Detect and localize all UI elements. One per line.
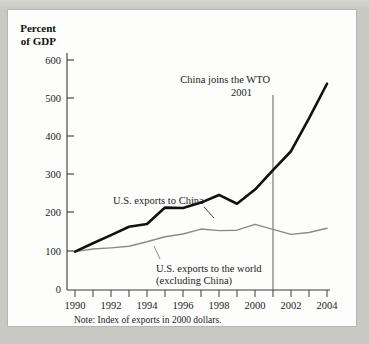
- y-axis-title-line2: of GDP: [21, 35, 56, 47]
- y-tick-label-600: 600: [45, 55, 61, 66]
- x-tick-label-1990: 1990: [65, 300, 86, 311]
- scan-streak: [0, 0, 369, 9]
- y-tick-label-100: 100: [45, 246, 61, 257]
- leader-line-world: [154, 246, 160, 259]
- figure-card: Percent of GDP 600 500 400 300: [8, 10, 356, 326]
- y-tick-label-200: 200: [45, 207, 61, 218]
- y-tick-label-300: 300: [45, 169, 61, 180]
- y-tick-label-500: 500: [45, 93, 61, 104]
- series-label-world-line1: U.S. exports to the world: [156, 263, 262, 274]
- figure-page: Percent of GDP 600 500 400 300: [0, 0, 369, 344]
- y-tick-label-0: 0: [56, 284, 61, 295]
- series-line-world: [75, 224, 327, 251]
- y-axis-title-line1: Percent: [20, 22, 56, 34]
- y-tick-label-400: 400: [45, 131, 61, 142]
- x-tick-label-1998: 1998: [209, 300, 230, 311]
- figure-note: Note: Index of exports in 2000 dollars.: [74, 315, 222, 325]
- wto-annotation-line2: 2001: [231, 87, 252, 98]
- x-tick-label-2004: 2004: [317, 300, 339, 311]
- x-tick-label-1992: 1992: [101, 300, 122, 311]
- chart-canvas: Percent of GDP 600 500 400 300: [8, 10, 356, 326]
- x-tick-label-1996: 1996: [173, 300, 194, 311]
- leader-line-china: [204, 207, 214, 218]
- line-chart-svg: Percent of GDP 600 500 400 300: [8, 10, 356, 326]
- y-tick-group: 600 500 400 300 200 100 0: [45, 55, 74, 296]
- x-tick-label-1994: 1994: [137, 300, 159, 311]
- wto-annotation-line1: China joins the WTO: [180, 74, 270, 85]
- x-tick-group: [75, 290, 327, 297]
- x-tick-label-group: 1990 1992 1994 1996 1998 2000 2002 2004: [65, 300, 339, 311]
- series-label-china: U.S. exports to China: [113, 195, 204, 206]
- x-tick-label-2000: 2000: [245, 300, 266, 311]
- x-tick-label-2002: 2002: [281, 300, 302, 311]
- series-line-china: [75, 84, 327, 252]
- series-label-world-line2: (excluding China): [156, 275, 233, 287]
